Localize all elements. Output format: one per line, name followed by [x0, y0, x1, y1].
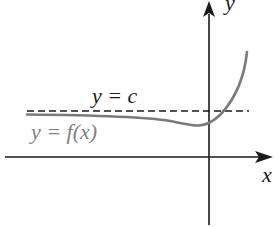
x-axis-label: x: [262, 164, 272, 186]
y-axis-label: y: [225, 0, 235, 14]
curve-label: y = f(x): [31, 121, 97, 143]
asymptote-label: y = c: [92, 85, 137, 107]
graph-canvas: [0, 0, 279, 227]
